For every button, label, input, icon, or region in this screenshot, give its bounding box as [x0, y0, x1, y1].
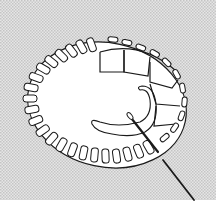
embroidery-illustration: [0, 0, 222, 215]
